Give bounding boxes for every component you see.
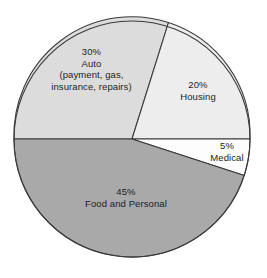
pie-label-medical-percent: 5% (192, 140, 262, 152)
pie-label-auto-percent: 30% (18, 46, 165, 58)
pie-label-housing: 20% Housing (159, 79, 237, 102)
pie-label-medical-name: Medical (192, 152, 262, 164)
pie-label-auto-detail-1: (payment, gas, (18, 69, 165, 81)
pie-label-medical: 5% Medical (192, 140, 262, 163)
pie-label-auto-detail-2: insurance, repairs) (18, 81, 165, 93)
pie-label-food-name: Food and Personal (52, 198, 200, 210)
pie-label-food-and-personal: 45% Food and Personal (52, 186, 200, 209)
pie-chart: 30% Auto (payment, gas, insurance, repai… (0, 0, 267, 278)
pie-label-auto: 30% Auto (payment, gas, insurance, repai… (18, 46, 165, 92)
pie-label-housing-percent: 20% (159, 79, 237, 91)
pie-label-housing-name: Housing (159, 91, 237, 103)
pie-label-auto-name: Auto (18, 58, 165, 70)
pie-chart-canvas (0, 0, 267, 278)
pie-label-food-percent: 45% (52, 186, 200, 198)
